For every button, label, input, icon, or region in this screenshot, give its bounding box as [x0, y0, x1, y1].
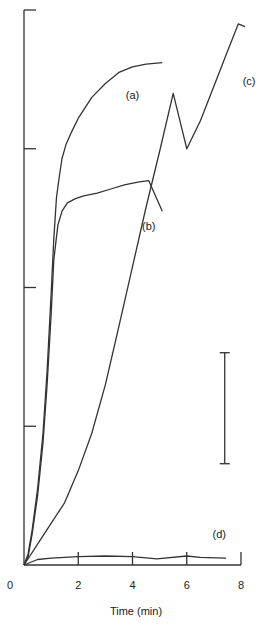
curves [24, 24, 245, 565]
curve-c [24, 24, 245, 565]
x-axis-label: Time (min) [110, 605, 162, 617]
series-label: (a) [126, 89, 139, 101]
x-tick-label: 8 [238, 579, 244, 591]
x-tick-label: 6 [184, 579, 190, 591]
series-label: (b) [142, 220, 155, 232]
curve-a [24, 63, 162, 565]
series-label: (d) [213, 528, 226, 540]
x-tick-label: 0 [7, 579, 13, 591]
series-label: (c) [243, 75, 256, 87]
x-tick-label: 4 [129, 579, 135, 591]
curve-d [24, 556, 226, 565]
x-tick-label: 2 [75, 579, 81, 591]
scale-bar [220, 353, 230, 464]
curve-b [24, 181, 162, 565]
